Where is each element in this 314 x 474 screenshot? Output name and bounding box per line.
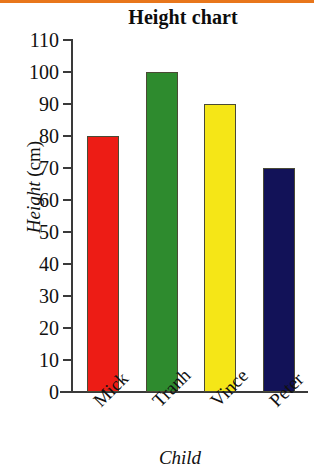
y-tick-70 [63, 167, 72, 169]
y-tick-label-50: 50 [0, 222, 59, 242]
x-axis-title: Child [0, 447, 314, 469]
chart-title: Height chart [0, 6, 314, 29]
y-tick-50 [63, 231, 72, 233]
y-tick-20 [63, 327, 72, 329]
y-tick-110 [63, 39, 72, 41]
y-tick-90 [63, 103, 72, 105]
y-tick-label-30: 30 [0, 286, 59, 306]
y-tick-label-110: 110 [0, 30, 59, 50]
bar-mick [87, 136, 119, 392]
y-tick-10 [63, 359, 72, 361]
y-tick-label-80: 80 [0, 126, 59, 146]
y-tick-label-10: 10 [0, 350, 59, 370]
y-tick-label-40: 40 [0, 254, 59, 274]
y-tick-label-70: 70 [0, 158, 59, 178]
bar-chart-figure: Height chart Height (cm) 010203040506070… [0, 0, 314, 474]
y-tick-100 [63, 71, 72, 73]
y-tick-label-20: 20 [0, 318, 59, 338]
page-top-rule [0, 0, 314, 3]
y-tick-80 [63, 135, 72, 137]
y-tick-40 [63, 263, 72, 265]
y-tick-label-0: 0 [0, 382, 59, 402]
y-tick-label-60: 60 [0, 190, 59, 210]
y-tick-0 [63, 391, 72, 393]
y-tick-60 [63, 199, 72, 201]
y-tick-label-90: 90 [0, 94, 59, 114]
y-tick-label-100: 100 [0, 62, 59, 82]
y-tick-30 [63, 295, 72, 297]
